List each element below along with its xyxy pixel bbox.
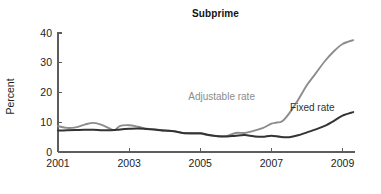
x-tick-label: 2003	[117, 157, 141, 169]
series-annotations: Adjustable rateFixed rate	[188, 91, 335, 113]
y-tick-label: 10	[40, 116, 52, 128]
series-annotation-adjustable-rate: Adjustable rate	[188, 91, 255, 102]
series-annotation-fixed-rate: Fixed rate	[290, 102, 335, 113]
y-axis-title: Percent	[4, 78, 16, 114]
chart-plot-area: 010203040 Percent 20012003200520072009 A…	[0, 0, 381, 194]
x-axis-group: 20012003200520072009	[46, 148, 355, 169]
y-tick-label: 30	[40, 56, 52, 68]
y-axis-tick-labels: 010203040	[40, 27, 52, 158]
x-axis-tick-labels: 20012003200520072009	[46, 157, 354, 169]
series-lines	[58, 40, 353, 137]
x-tick-label: 2001	[46, 157, 70, 169]
y-tick-label: 0	[46, 146, 52, 158]
x-tick-label: 2007	[260, 157, 284, 169]
y-axis-group: 010203040 Percent	[4, 27, 62, 158]
x-tick-label: 2005	[189, 157, 213, 169]
y-tick-label: 20	[40, 86, 52, 98]
x-axis-ticks	[58, 148, 343, 152]
x-tick-label: 2009	[331, 157, 355, 169]
y-axis-ticks	[58, 33, 62, 152]
subprime-chart: Subprime 010203040 Percent 2001200320052…	[0, 0, 381, 194]
y-tick-label: 40	[40, 27, 52, 39]
series-line-adjustable-rate	[58, 40, 353, 136]
